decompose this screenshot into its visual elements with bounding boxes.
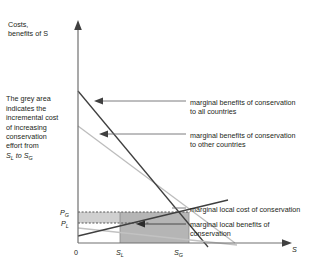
leader-arrowhead-other (99, 131, 108, 138)
grey-area-note: The grey area indicates the incremental … (6, 85, 78, 164)
x-tick-label-origin: 0 (74, 248, 78, 257)
x-tick-label-s-local: SL (116, 248, 124, 258)
annotation-marginal-local-cost: marginal local cost of conservation (190, 205, 326, 214)
grey-area-note-body: The grey area indicates the incremental … (6, 94, 58, 150)
y-axis-label: Costs, benefits of S (8, 20, 78, 39)
y-tick-label-p-global: PG (60, 208, 69, 218)
annotation-marginal-benefits-all-countries: marginal benefits of conservation to all… (190, 98, 326, 117)
x-axis-arrowhead (282, 239, 292, 247)
annotation-marginal-local-benefits: marginal local benefits of conservation (190, 220, 326, 239)
grey-area-note-range: SL to SG (6, 151, 78, 164)
x-axis-label: S (292, 245, 297, 254)
annotation-marginal-benefits-other-countries: marginal benefits of conservation to oth… (190, 131, 326, 150)
y-tick-label-p-local: PL (61, 219, 69, 229)
leader-arrowhead-all (94, 98, 103, 105)
x-tick-label-s-global: SG (174, 248, 183, 258)
